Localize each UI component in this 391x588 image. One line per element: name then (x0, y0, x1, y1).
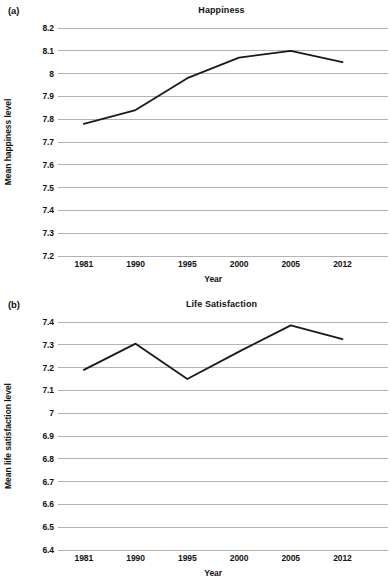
chart-svg (58, 322, 388, 550)
x-tick-label: 2005 (281, 553, 300, 563)
y-tick-label: 7.8 (42, 114, 54, 124)
panel-label-b: (b) (8, 299, 20, 310)
y-tick-label: 7.3 (42, 228, 54, 238)
y-tick-label: 6.6 (42, 499, 54, 509)
y-tick-label: 7.5 (42, 183, 54, 193)
x-tick-label: 2012 (333, 259, 352, 269)
y-tick-label: 8.2 (42, 23, 54, 33)
x-tick-label: 1990 (126, 553, 145, 563)
y-tick-label: 7.7 (42, 137, 54, 147)
y-tick-label: 7.9 (42, 91, 54, 101)
data-series-line (84, 325, 343, 379)
y-tick-label: 8 (49, 69, 54, 79)
x-tick-label: 2012 (333, 553, 352, 563)
panel-label-a: (a) (8, 5, 19, 16)
x-axis-title-life-satisfaction: Year (58, 568, 368, 578)
chart-panel-happiness: (a) Happiness Mean happiness level 8.28.… (0, 0, 391, 294)
y-tick-label: 7.2 (42, 251, 54, 261)
y-axis-title-happiness: Mean happiness level (0, 28, 16, 256)
chart-title-happiness: Happiness (60, 5, 383, 15)
y-tick-label: 6.8 (42, 454, 54, 464)
y-tick-label: 7.3 (42, 340, 54, 350)
y-tick-label: 7 (49, 408, 54, 418)
chart-title-life-satisfaction: Life Satisfaction (60, 299, 383, 309)
y-axis-title-label-a: Mean happiness level (3, 99, 13, 185)
y-axis-title-life-satisfaction: Mean life satisfaction level (0, 322, 16, 550)
y-tick-label: 7.2 (42, 363, 54, 373)
x-tick-label: 1995 (178, 553, 197, 563)
y-tick-label: 6.7 (42, 477, 54, 487)
y-tick-label: 6.5 (42, 522, 54, 532)
y-tick-label: 7.1 (42, 385, 54, 395)
x-tick-label: 1981 (75, 553, 94, 563)
x-tick-label: 1990 (126, 259, 145, 269)
x-tick-label: 2000 (230, 259, 249, 269)
y-tick-label: 6.4 (42, 545, 54, 555)
y-tick-label: 7.6 (42, 160, 54, 170)
figure-container: (a) Happiness Mean happiness level 8.28.… (0, 0, 391, 588)
y-axis-title-label-b: Mean life satisfaction level (3, 383, 13, 489)
plot-area-happiness (58, 28, 388, 256)
x-axis-title-happiness: Year (58, 274, 368, 284)
data-series-line (84, 51, 343, 124)
x-tick-label: 1981 (75, 259, 94, 269)
y-tick-label: 7.4 (42, 317, 54, 327)
gridlines (58, 322, 388, 550)
y-tick-label: 7.4 (42, 205, 54, 215)
x-tick-label: 2005 (281, 259, 300, 269)
plot-area-life-satisfaction (58, 322, 388, 550)
x-tick-label: 1995 (178, 259, 197, 269)
chart-panel-life-satisfaction: (b) Life Satisfaction Mean life satisfac… (0, 294, 391, 588)
y-tick-label: 6.9 (42, 431, 54, 441)
y-tick-label: 8.1 (42, 46, 54, 56)
chart-svg (58, 28, 388, 256)
x-tick-label: 2000 (230, 553, 249, 563)
